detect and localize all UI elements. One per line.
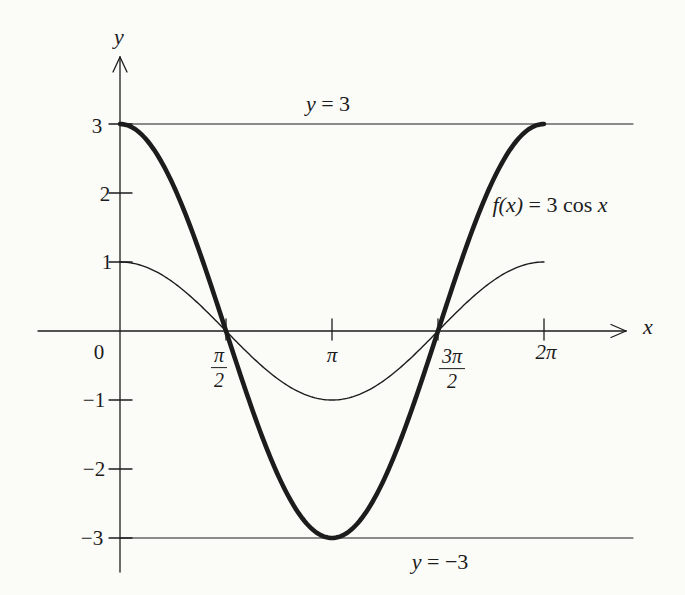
x-axis-label: x bbox=[643, 316, 653, 338]
x-tick-label-3pi-over-2: 3π 2 bbox=[439, 345, 465, 393]
x-axis-arrowhead bbox=[611, 325, 626, 332]
plot-canvas bbox=[0, 0, 685, 595]
fraction-denominator: 2 bbox=[447, 370, 457, 393]
curve-equation-label: f(x) = 3 cos x bbox=[492, 194, 607, 216]
fraction-numerator: 3π bbox=[439, 345, 465, 369]
fraction-numerator: π bbox=[211, 344, 227, 368]
y-axis-label: y bbox=[114, 26, 124, 48]
y-tick-label-1: 1 bbox=[102, 252, 113, 273]
x-axis-arrowhead bbox=[611, 331, 626, 338]
y-axis-arrowhead bbox=[113, 57, 120, 72]
y-tick-label-3: 3 bbox=[92, 116, 103, 137]
y-tick-label-neg3: −3 bbox=[81, 528, 103, 549]
y-tick-label-2: 2 bbox=[100, 184, 111, 205]
y-tick-label-neg2: −2 bbox=[83, 459, 105, 480]
x-tick-label-pi-over-2: π 2 bbox=[211, 344, 227, 392]
x-tick-label-pi: π bbox=[327, 345, 338, 366]
y-axis-arrowhead bbox=[120, 57, 127, 72]
fraction-denominator: 2 bbox=[214, 369, 224, 392]
y-tick-label-neg1: −1 bbox=[83, 390, 105, 411]
x-tick-label-2pi: 2π bbox=[535, 342, 556, 363]
upper-line-label: y = 3 bbox=[306, 93, 350, 115]
figure-canvas: y x 0 3 2 1 −1 −2 −3 π 2 π 3π 2 2π y = 3… bbox=[0, 0, 685, 595]
origin-label: 0 bbox=[94, 342, 105, 363]
lower-line-label: y = −3 bbox=[412, 551, 469, 573]
